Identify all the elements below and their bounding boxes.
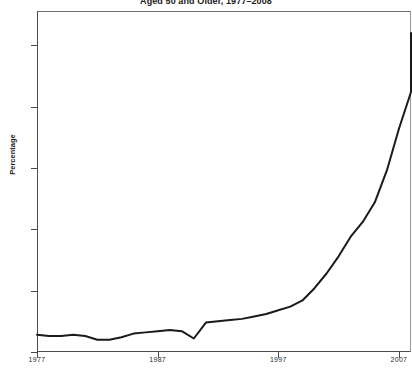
line-series-percentage [37, 33, 411, 340]
chart-title: Aged 50 and Older, 1977–2008 [0, 0, 412, 7]
x-tick-mark [278, 352, 279, 358]
data-series-layer [37, 11, 411, 352]
y-axis-title: Percentage [8, 115, 17, 195]
x-tick-mark [158, 352, 159, 358]
x-tick-mark [37, 352, 38, 358]
chart-container: Aged 50 and Older, 1977–2008 Percentage … [0, 0, 412, 380]
x-tick-label: 2007 [369, 356, 412, 363]
x-tick-mark [399, 352, 400, 358]
